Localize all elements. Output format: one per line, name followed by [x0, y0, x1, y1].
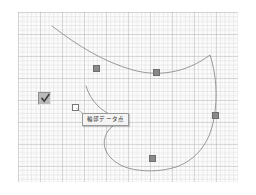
control-point-3[interactable]	[212, 112, 219, 119]
graph-paper-canvas[interactable]	[18, 12, 238, 182]
hollow-square-cursor[interactable]	[72, 104, 79, 111]
check-icon	[41, 93, 50, 104]
control-point-1[interactable]	[93, 65, 100, 72]
data-point-tooltip: 輪郭データ点	[82, 113, 129, 126]
control-point-4[interactable]	[149, 155, 156, 162]
spline-editor-window: 輪郭データ点	[0, 0, 256, 195]
display-toggle-checkbox[interactable]	[38, 92, 51, 105]
control-point-2[interactable]	[153, 69, 160, 76]
